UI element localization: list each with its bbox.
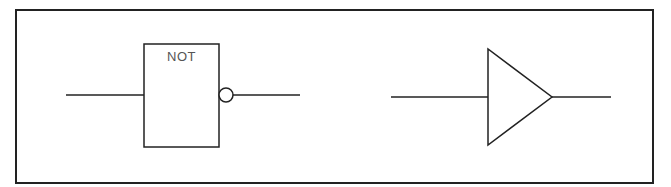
inversion-bubble-icon	[219, 88, 233, 102]
not-gate-label: NOT	[167, 49, 196, 64]
buffer-gate	[391, 49, 611, 145]
buffer-triangle-icon	[488, 49, 552, 145]
not-gate: NOT	[66, 44, 300, 147]
logic-gate-diagram: NOT	[0, 0, 671, 187]
